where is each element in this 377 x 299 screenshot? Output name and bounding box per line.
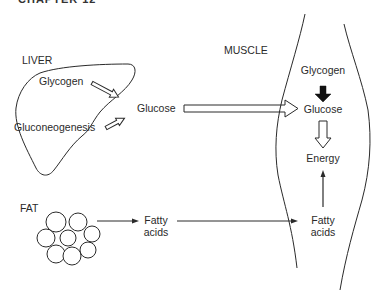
metabolism-diagram: CHAPTER 12 LIVER Glycogen Gluconeogenesi… xyxy=(0,0,377,299)
muscle-glycogen-label: Glycogen xyxy=(297,64,349,76)
muscle-fatty-acids-line1: Fatty xyxy=(303,214,343,226)
liver-gluconeogenesis-arrow xyxy=(104,114,126,131)
liver-glycogen-label: Glycogen xyxy=(39,75,83,87)
muscle-label: MUSCLE xyxy=(224,44,268,56)
liver-gluconeogenesis-label: Gluconeogenesis xyxy=(14,121,95,133)
muscle-glucose-label: Glucose xyxy=(300,103,346,115)
muscle-glucose-energy-arrow xyxy=(315,121,331,148)
muscle-fatty-acids-line2: acids xyxy=(303,226,343,238)
figure-title-cut: CHAPTER 12 xyxy=(18,0,96,5)
liver-glucose-label: Glucose xyxy=(137,102,176,114)
muscle-outline-left xyxy=(276,14,305,268)
fat-cluster-icon xyxy=(37,212,100,265)
muscle-glycogen-arrow xyxy=(315,86,331,102)
liver-label: LIVER xyxy=(22,54,52,66)
fat-label: FAT xyxy=(20,202,38,214)
liver-glycogen-arrow xyxy=(90,79,121,101)
fatty-acids-transport-arrowhead xyxy=(291,219,298,224)
diagram-graphics xyxy=(0,0,377,299)
fat-fatty-acids-line2: acids xyxy=(138,226,174,238)
muscle-fatty-acids-energy-arrowhead xyxy=(321,170,326,177)
muscle-energy-label: Energy xyxy=(301,152,345,164)
fat-fatty-acids-line1: Fatty xyxy=(138,214,174,226)
